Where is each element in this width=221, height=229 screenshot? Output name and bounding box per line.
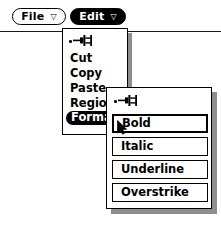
edit-menu-item-label: Paste <box>70 83 106 95</box>
edit-menu-item-cut[interactable]: Cut <box>63 51 127 66</box>
menu-bar-button-edit-label: Edit <box>79 11 104 22</box>
pushpin-hole-dot-icon <box>114 100 117 103</box>
format-menu-item-label: Bold <box>122 118 151 130</box>
format-menu-item-list: Bold Italic Underline Overstrike <box>112 114 208 206</box>
chevron-down-triangle-icon: ▽ <box>50 13 56 21</box>
menu-bar-button-edit[interactable]: Edit ▽ <box>70 8 126 25</box>
format-menu-item-label: Overstrike <box>121 187 189 199</box>
format-menu-pin-row[interactable] <box>107 88 211 109</box>
edit-menu-item-copy[interactable]: Copy <box>63 66 127 81</box>
format-menu-item-italic[interactable]: Italic <box>112 137 208 156</box>
pushpin-hole-dot-icon <box>69 40 72 43</box>
format-menu-drop-shadow-bottom <box>111 209 217 214</box>
menu-bar-button-file[interactable]: File ▽ <box>12 8 66 25</box>
chevron-down-triangle-icon: ▽ <box>110 13 116 21</box>
format-menu-item-label: Underline <box>121 164 184 176</box>
application-window: File ▽ Edit ▽ Cut <box>0 0 221 229</box>
edit-menu-item-label: Cut <box>70 53 92 65</box>
format-menu-drop-shadow-right <box>212 92 217 214</box>
menu-bar: File ▽ Edit ▽ <box>0 0 221 31</box>
menu-bar-divider-left <box>0 31 62 32</box>
format-menu-item-label: Italic <box>121 141 153 153</box>
pushpin-unpinned-icon[interactable] <box>118 94 140 107</box>
format-menu-item-overstrike[interactable]: Overstrike <box>112 183 208 202</box>
edit-menu-pin-row[interactable] <box>63 29 127 50</box>
format-menu-item-underline[interactable]: Underline <box>112 160 208 179</box>
pushpin-unpinned-icon[interactable] <box>73 34 95 47</box>
format-menu-item-bold[interactable]: Bold <box>112 114 208 133</box>
menu-bar-button-file-label: File <box>21 11 44 22</box>
menu-bar-divider-right <box>128 31 221 32</box>
edit-menu-item-label: Copy <box>70 68 102 80</box>
format-submenu-panel: Bold Italic Underline Overstrike <box>106 87 212 209</box>
